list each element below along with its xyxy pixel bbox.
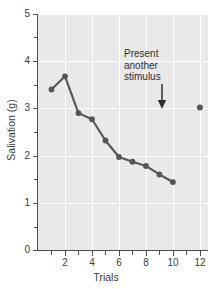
y-axis-title: Salivation (g) [5, 70, 17, 190]
y-ticklabel-0: 0 [14, 245, 30, 255]
y-tick-2 [33, 156, 38, 157]
x-ticklabel-6: 6 [109, 258, 129, 268]
x-tick-4 [92, 251, 93, 256]
y-tick-0 [33, 250, 38, 251]
x-tick-8 [146, 251, 147, 256]
x-axis [37, 250, 208, 251]
x-tick-minor-11 [186, 251, 187, 255]
down-arrow-icon [152, 84, 172, 110]
y-tick-4 [33, 61, 38, 62]
chart-figure: 5 4 3 2 1 0 2 4 6 8 10 12 Salivation (g)… [0, 0, 212, 289]
data-point [157, 172, 163, 178]
x-tick-6 [119, 251, 120, 256]
x-tick-minor-5 [105, 251, 106, 255]
x-ticklabel-8: 8 [136, 258, 156, 268]
y-tick-minor-0-5 [34, 227, 38, 228]
data-point [103, 138, 109, 144]
data-point [130, 159, 136, 165]
x-tick-minor-1 [51, 251, 52, 255]
y-ticklabel-1: 1 [14, 198, 30, 208]
y-tick-minor-2-5 [34, 132, 38, 133]
x-ticklabel-12: 12 [190, 258, 210, 268]
annotation-present-another-stimulus: Present another stimulus [124, 48, 186, 83]
x-tick-minor-7 [132, 251, 133, 255]
y-tick-minor-4-5 [34, 37, 38, 38]
data-point [62, 73, 68, 79]
x-ticklabel-4: 4 [82, 258, 102, 268]
data-point [116, 154, 122, 160]
y-tick-5 [33, 14, 38, 15]
y-ticklabel-4: 4 [14, 56, 30, 66]
data-point [170, 179, 176, 185]
y-tick-1 [33, 203, 38, 204]
annotation-line-1: Present [124, 48, 186, 60]
annotation-line-2: another [124, 60, 186, 72]
x-ticklabel-10: 10 [163, 258, 183, 268]
x-tick-10 [173, 251, 174, 256]
x-tick-minor-9 [159, 251, 160, 255]
x-tick-12 [200, 251, 201, 256]
x-ticklabel-2: 2 [55, 258, 75, 268]
x-tick-2 [65, 251, 66, 256]
data-point [76, 110, 82, 116]
x-axis-title: Trials [0, 271, 212, 283]
annotation-line-3: stimulus [124, 71, 186, 83]
data-point [89, 116, 95, 122]
data-point [143, 163, 149, 169]
isolated-point-marker [197, 104, 203, 110]
y-tick-3 [33, 108, 38, 109]
x-tick-minor-3 [78, 251, 79, 255]
data-point [49, 87, 55, 93]
y-tick-minor-1-5 [34, 179, 38, 180]
y-ticklabel-5: 5 [14, 9, 30, 19]
y-tick-minor-3-5 [34, 85, 38, 86]
data-point-isolated [197, 104, 203, 110]
